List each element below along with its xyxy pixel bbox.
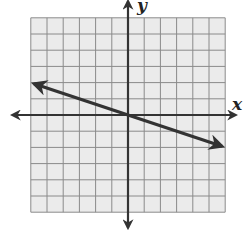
x-axis-label: x: [231, 94, 243, 114]
coordinate-plane: x y: [0, 0, 247, 230]
y-axis-label: y: [136, 0, 148, 15]
